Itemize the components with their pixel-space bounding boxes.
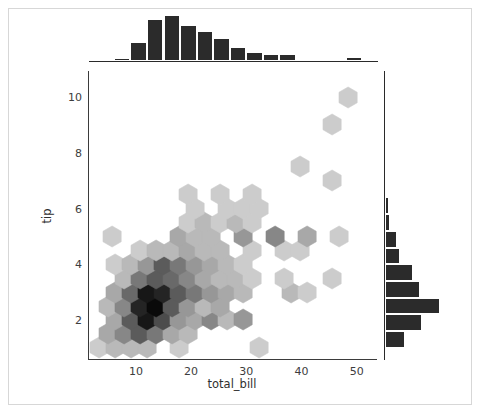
marginal-x-baseline <box>89 61 378 62</box>
x-tick-label: 20 <box>184 365 198 378</box>
marginal-y-bar <box>385 231 397 248</box>
y-axis-label: tip <box>40 208 54 223</box>
marginal-histogram-x <box>89 13 376 61</box>
marginal-x-bar <box>213 38 230 61</box>
y-axis-spine <box>88 71 89 360</box>
marginal-y-bar <box>385 164 387 181</box>
marginal-histogram-y <box>385 72 443 359</box>
x-tick-label: 40 <box>294 365 308 378</box>
y-tick-label: 4 <box>64 258 82 271</box>
x-axis-spine <box>88 359 377 360</box>
marginal-y-bar <box>385 97 387 114</box>
marginal-x-bar <box>180 25 197 61</box>
marginal-x-bar <box>130 42 147 61</box>
marginal-x-bar <box>164 15 181 61</box>
marginal-x-bar <box>147 19 164 61</box>
x-tick-label: 50 <box>350 365 364 378</box>
marginal-x-bar <box>197 31 214 61</box>
marginal-y-bar <box>385 314 422 331</box>
marginal-y-bar <box>385 331 405 348</box>
marginal-y-bar <box>385 281 420 298</box>
marginal-y-baseline <box>384 71 385 360</box>
x-tick-label: 10 <box>129 365 143 378</box>
marginal-y-bar <box>385 114 387 131</box>
y-tick-label: 8 <box>64 146 82 159</box>
marginal-x-bar <box>230 47 247 61</box>
marginal-y-bar <box>385 264 413 281</box>
marginal-y-bar <box>385 248 400 265</box>
marginal-x-bar <box>246 52 263 61</box>
y-tick-label: 10 <box>64 91 82 104</box>
marginal-y-bar <box>385 214 390 231</box>
marginal-y-bar <box>385 181 387 198</box>
joint-hexbin-plot <box>89 72 376 359</box>
x-axis-label: total_bill <box>208 377 257 391</box>
marginal-y-bar <box>385 197 389 214</box>
y-tick-label: 6 <box>64 202 82 215</box>
figure-canvas: 1020304050 246810 total_bill tip <box>0 0 482 416</box>
y-tick-label: 2 <box>64 313 82 326</box>
marginal-y-bar <box>385 298 440 315</box>
